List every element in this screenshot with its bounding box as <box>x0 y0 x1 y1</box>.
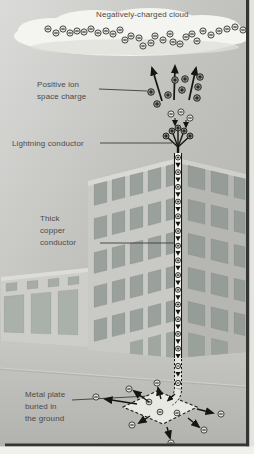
window <box>94 249 107 273</box>
window <box>148 303 161 327</box>
door <box>166 331 175 358</box>
low-building-window <box>6 282 17 291</box>
copper-conductor-strip <box>175 153 182 359</box>
copper-conductor-label-line1: Thick <box>40 213 76 225</box>
window <box>211 239 228 264</box>
window <box>188 267 205 292</box>
low-building-window <box>27 280 38 289</box>
low-building-window <box>68 276 79 285</box>
window <box>94 215 107 239</box>
right-border <box>246 0 249 447</box>
window <box>166 266 175 289</box>
window <box>94 181 107 205</box>
window <box>166 164 175 187</box>
cloud-label: Negatively-charged cloud <box>96 9 189 21</box>
window <box>148 167 161 191</box>
window <box>130 172 143 196</box>
low-building <box>1 268 88 347</box>
window <box>130 274 143 298</box>
low-building-window-large <box>4 295 24 333</box>
space-charge-label-line1: Positive ion <box>37 79 86 91</box>
bottom-border <box>5 444 247 447</box>
window <box>166 198 175 221</box>
window <box>94 283 107 307</box>
window <box>112 245 125 269</box>
diagram-canvas <box>0 0 254 454</box>
window <box>112 211 125 235</box>
window <box>188 233 205 258</box>
space-charge-label-line2: space charge <box>37 91 86 103</box>
window <box>166 300 175 323</box>
cloud-shadow <box>31 39 239 55</box>
window <box>211 171 228 196</box>
window <box>188 301 205 326</box>
window <box>234 176 245 200</box>
right-margin <box>249 0 254 454</box>
window <box>188 199 205 224</box>
window <box>130 308 143 332</box>
door <box>148 334 161 356</box>
lightning-conductor-label: Lightning conductor <box>12 138 84 150</box>
window <box>234 210 245 234</box>
window <box>130 206 143 230</box>
metal-plate-label-line3: the ground <box>25 413 65 425</box>
window <box>112 177 125 201</box>
window <box>211 273 228 298</box>
metal-plate-label-line2: buried in <box>25 401 65 413</box>
metal-plate-label: Metal plate buried in the ground <box>25 389 65 425</box>
copper-conductor-label-line3: conductor <box>40 237 76 249</box>
window <box>112 279 125 303</box>
window <box>130 240 143 264</box>
window <box>234 278 245 302</box>
door <box>188 332 205 357</box>
copper-conductor-label-line2: copper <box>40 225 76 237</box>
window <box>234 312 245 336</box>
low-building-window-large <box>31 292 51 334</box>
bottom-margin <box>0 447 254 454</box>
window <box>148 235 161 259</box>
space-charge-label: Positive ion space charge <box>37 79 86 102</box>
window <box>148 201 161 225</box>
metal-plate-label-line1: Metal plate <box>25 389 65 401</box>
window <box>234 244 245 268</box>
window <box>211 307 228 332</box>
window <box>211 205 228 230</box>
main-building <box>88 158 246 358</box>
low-building-window <box>48 278 59 287</box>
lightning-protection-diagram: Negatively-charged cloud Positive ion sp… <box>0 0 254 454</box>
window <box>188 165 205 190</box>
window <box>94 317 107 341</box>
window <box>112 313 125 337</box>
copper-conductor-label: Thick copper conductor <box>40 213 76 249</box>
low-building-window-large <box>58 289 78 335</box>
window <box>148 269 161 293</box>
